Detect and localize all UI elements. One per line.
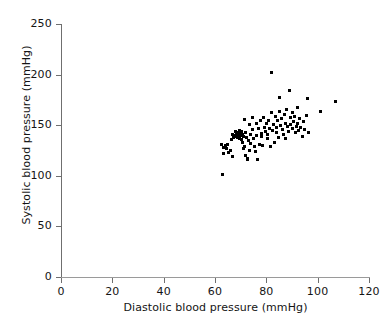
data-point xyxy=(273,141,276,144)
data-point xyxy=(284,137,287,140)
x-tick-label-0: 0 xyxy=(41,286,81,297)
data-point xyxy=(289,123,292,126)
data-point xyxy=(265,122,268,125)
data-point xyxy=(283,113,286,116)
data-point xyxy=(279,124,282,127)
data-point xyxy=(270,71,273,74)
data-point xyxy=(334,100,337,103)
data-point xyxy=(243,118,246,121)
data-point xyxy=(281,128,284,131)
data-point xyxy=(248,123,251,126)
x-tick-label-100: 100 xyxy=(298,286,338,297)
data-point xyxy=(255,122,258,125)
data-point xyxy=(252,137,255,140)
data-point xyxy=(222,152,225,155)
data-point xyxy=(296,106,299,109)
x-tick-20 xyxy=(112,278,113,283)
data-point xyxy=(255,134,258,137)
data-point xyxy=(298,117,301,120)
x-tick-label-60: 60 xyxy=(195,286,235,297)
data-point xyxy=(254,150,257,153)
data-point xyxy=(262,116,265,119)
data-point xyxy=(266,133,269,136)
data-point xyxy=(297,129,300,132)
data-point xyxy=(246,157,249,160)
data-point xyxy=(282,133,285,136)
data-point xyxy=(256,158,259,161)
data-point xyxy=(259,119,262,122)
data-point xyxy=(275,131,278,134)
x-tick-label-80: 80 xyxy=(246,286,286,297)
x-tick-40 xyxy=(164,278,165,283)
data-point xyxy=(231,155,234,158)
data-point xyxy=(274,115,277,118)
data-point xyxy=(276,119,279,122)
data-point xyxy=(292,120,295,123)
scatter-plot-figure: 050100150200250 020406080100120 Diastoli… xyxy=(0,0,390,320)
data-point xyxy=(221,173,224,176)
y-axis-label-holder: Systolic blood pressure (mmHg) xyxy=(20,25,34,245)
data-point xyxy=(288,89,291,92)
data-point xyxy=(263,126,266,129)
data-point xyxy=(248,149,251,152)
data-point xyxy=(303,128,306,131)
x-tick-120 xyxy=(369,278,370,283)
data-point xyxy=(270,111,273,114)
data-point xyxy=(277,136,280,139)
x-tick-100 xyxy=(318,278,319,283)
data-point xyxy=(291,111,294,114)
data-point xyxy=(275,126,278,129)
y-tick-label-0: 0 xyxy=(0,271,52,282)
data-point xyxy=(267,119,270,122)
data-point xyxy=(278,96,281,99)
x-tick-label-120: 120 xyxy=(349,286,389,297)
data-point xyxy=(289,116,292,119)
data-point xyxy=(301,135,304,138)
x-tick-label-40: 40 xyxy=(144,286,184,297)
data-point xyxy=(225,147,228,150)
data-point xyxy=(261,144,264,147)
data-point xyxy=(278,110,281,113)
data-point xyxy=(306,97,309,100)
data-point xyxy=(243,145,246,148)
data-point xyxy=(287,130,290,133)
data-point xyxy=(299,126,302,129)
data-point xyxy=(280,117,283,120)
plot-area xyxy=(61,24,369,277)
x-tick-0 xyxy=(61,278,62,283)
x-tick-80 xyxy=(266,278,267,283)
data-point xyxy=(307,131,310,134)
data-point xyxy=(293,115,296,118)
data-point xyxy=(251,116,254,119)
data-point xyxy=(251,128,254,131)
data-point xyxy=(260,135,263,138)
x-tick-60 xyxy=(215,278,216,283)
data-point xyxy=(285,108,288,111)
y-tick-label-wrap: 0 xyxy=(0,271,52,282)
x-axis-label: Diastolic blood pressure (mmHg) xyxy=(61,302,370,314)
data-point xyxy=(253,145,256,148)
data-point xyxy=(319,110,322,113)
data-point xyxy=(305,114,308,117)
data-point xyxy=(269,145,272,148)
data-point xyxy=(244,131,247,134)
x-tick-label-20: 20 xyxy=(92,286,132,297)
data-point xyxy=(296,122,299,125)
data-point xyxy=(302,120,305,123)
y-axis-label: Systolic blood pressure (mmHg) xyxy=(20,25,34,245)
data-point xyxy=(249,133,252,136)
data-point xyxy=(241,141,244,144)
data-point xyxy=(229,149,232,152)
data-point xyxy=(271,129,274,132)
data-point xyxy=(295,125,298,128)
data-point xyxy=(266,137,269,140)
data-point xyxy=(226,143,229,146)
data-point xyxy=(257,127,260,130)
